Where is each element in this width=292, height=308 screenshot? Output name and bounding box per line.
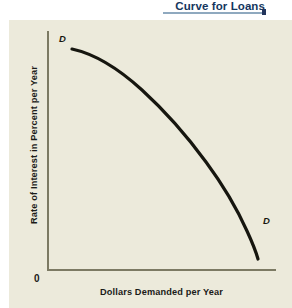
figure-panel: D D 0 Rate of Interest in Percent per Ye… [9, 20, 292, 308]
header-rule [163, 12, 262, 14]
figure-header: Curve for Loans [0, 0, 292, 20]
y-axis-label: Rate of Interest in Percent per Year [29, 35, 39, 255]
origin-label: 0 [34, 273, 40, 284]
page-title: Curve for Loans [175, 0, 265, 12]
curve-label-top: D [59, 33, 66, 44]
x-axis-label: Dollars Demanded per Year [47, 287, 276, 297]
header-rule-end-marker [262, 9, 266, 15]
plot-area: D D 0 Rate of Interest in Percent per Ye… [9, 20, 292, 308]
demand-curve [9, 20, 292, 308]
curve-label-bottom: D [263, 215, 270, 226]
